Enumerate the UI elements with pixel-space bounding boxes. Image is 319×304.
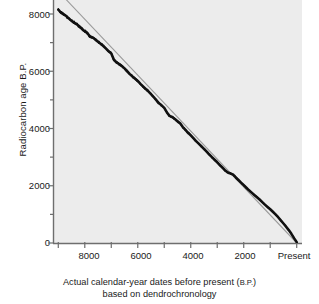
x-tick-label-8000: 8000 bbox=[59, 250, 119, 261]
x-tick-label-6000: 6000 bbox=[111, 250, 171, 261]
x-axis-label-bp-abbrev: B.P. bbox=[240, 278, 253, 287]
x-axis-label: Actual calendar-year dates before presen… bbox=[0, 277, 319, 300]
x-axis-label-line-2: based on dendrochronology bbox=[0, 289, 319, 301]
x-axis-label-line-1-end: ) bbox=[253, 277, 256, 287]
x-axis-label-line-1-main: Actual calendar-year dates before presen… bbox=[63, 277, 240, 287]
radiocarbon-calibration-figure: Radiocarbon age B.P. 0 2000 4000 6000 80… bbox=[0, 0, 319, 304]
x-tick-label-4000: 4000 bbox=[163, 250, 223, 261]
x-tick-label-present: Present bbox=[264, 250, 319, 261]
x-axis-label-line-1: Actual calendar-year dates before presen… bbox=[0, 277, 319, 289]
